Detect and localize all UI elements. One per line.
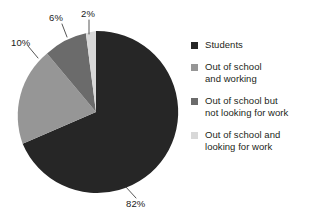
pie-slices	[18, 31, 178, 193]
legend-label-line1: Out of school and	[205, 129, 280, 140]
pie-label-6-percent: 6%	[49, 13, 63, 23]
legend-item-label: Out of school and looking for work	[205, 129, 280, 154]
legend-label-line1: Out of school but	[205, 95, 278, 106]
legend-item-label: Out of school and working	[205, 61, 262, 86]
legend-swatch-icon	[191, 132, 198, 139]
legend-swatch-icon	[191, 64, 198, 71]
legend-label-line2: looking for work	[205, 141, 272, 152]
legend-item-label: Students	[205, 39, 243, 52]
pie-label-82-percent: 82%	[126, 199, 145, 209]
pie-label-10-percent: 10%	[11, 38, 30, 48]
legend-label-line1: Out of school	[205, 61, 262, 72]
legend-label-line2: and working	[205, 73, 257, 84]
leader-line-6	[62, 24, 67, 37]
legend-item-out-of-school-looking: Out of school and looking for work	[191, 129, 314, 154]
legend-label-line1: Students	[205, 39, 243, 50]
pie-label-2-percent: 2%	[81, 9, 95, 19]
legend-item-out-of-school-not-looking: Out of school but not looking for work	[191, 95, 314, 120]
legend-item-label: Out of school but not looking for work	[205, 95, 288, 120]
legend-item-out-of-school-and-working: Out of school and working	[191, 61, 314, 86]
pie-chart-figure: 10% 6% 2% 82% Students Out of school and…	[0, 0, 314, 219]
legend-swatch-icon	[191, 42, 198, 49]
legend-swatch-icon	[191, 98, 198, 105]
chart-legend: Students Out of school and working Out o…	[191, 39, 314, 163]
leader-line-82	[125, 186, 136, 198]
legend-item-students: Students	[191, 39, 314, 52]
legend-label-line2: not looking for work	[205, 107, 288, 118]
